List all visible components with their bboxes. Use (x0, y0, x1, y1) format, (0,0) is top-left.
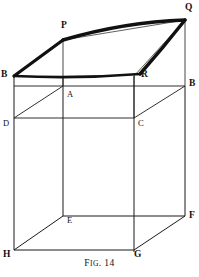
geometry-figure: B P Q R B A D C E F G H FIG. 14 (0, 0, 199, 277)
vertex-label-Q: Q (185, 3, 192, 13)
bold-edge-B-P (14, 40, 63, 76)
edge-G-F (134, 216, 185, 250)
vertex-label-F: F (189, 211, 195, 221)
bold-edge-Q-R (140, 20, 185, 74)
edge-C-Bright (134, 86, 185, 118)
edge-D-A (14, 86, 63, 118)
vertex-label-B-right: B (189, 79, 195, 89)
vertex-label-A: A (67, 90, 73, 99)
vertex-label-C: C (138, 119, 144, 128)
bold-edge-R-B (14, 74, 140, 77)
caption-tail: . 14 (99, 258, 115, 268)
caption-rest: IG (90, 259, 99, 268)
vertex-label-B-left: B (1, 70, 7, 80)
construction-edge-P-Q-inner (63, 20, 185, 40)
vertex-label-E: E (67, 216, 72, 225)
vertex-label-R: R (141, 70, 148, 80)
figure-drawing (0, 0, 199, 277)
vertex-label-P: P (61, 21, 67, 31)
figure-caption: FIG. 14 (0, 258, 199, 268)
vertex-label-D: D (3, 119, 9, 128)
edge-H-E (14, 216, 63, 250)
